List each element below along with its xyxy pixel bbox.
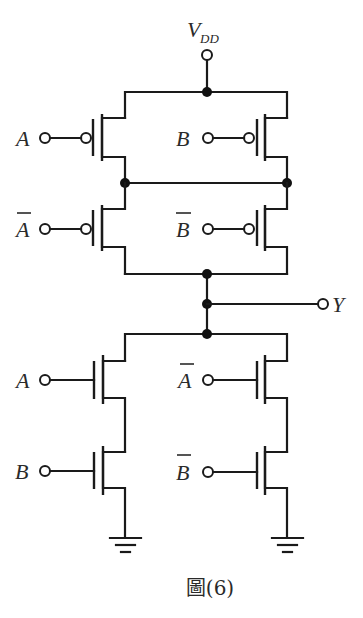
- nmos-b-input-terminal: [40, 466, 50, 476]
- pmos-b-bar-input-terminal: [203, 224, 213, 234]
- nmos-a-bar-input-terminal: [203, 375, 213, 385]
- pmos-b-input-label: B: [176, 126, 189, 151]
- pmos-b-bar-input-label: B: [176, 217, 189, 242]
- pmos-b-gate-bubble: [244, 133, 254, 143]
- ground-icon: [272, 538, 303, 552]
- nmos-b-channel: [103, 452, 125, 538]
- pmos-a-bar-input-terminal: [40, 224, 50, 234]
- nmos-b: B: [15, 446, 125, 538]
- nmos-a-bar-channel: [265, 361, 287, 452]
- vdd-subscript: DD: [199, 31, 219, 46]
- pmos-b-channel: [265, 118, 287, 183]
- nmos-a-input-label: A: [14, 368, 30, 393]
- pmos-a-channel: [102, 118, 125, 183]
- junction-vdd: [202, 87, 212, 97]
- figure-caption: 圖(6): [186, 576, 234, 600]
- nmos-b-bar: B: [176, 446, 287, 538]
- nmos-a-input-terminal: [40, 375, 50, 385]
- junction-pulldown: [202, 329, 212, 339]
- nmos-b-bar-input-terminal: [203, 467, 213, 477]
- circuit-diagram: V DD A B A: [0, 0, 363, 618]
- vdd-supply: V DD: [187, 17, 219, 92]
- nmos-a-bar-input-label: A: [176, 368, 192, 393]
- vdd-terminal: [202, 50, 212, 60]
- pmos-b-bar: B: [176, 183, 287, 274]
- pmos-b-input-terminal: [203, 133, 213, 143]
- nmos-b-bar-channel: [265, 452, 287, 538]
- junction-pullup-out: [202, 269, 212, 279]
- ground-icon: [110, 538, 141, 552]
- pmos-a: A: [14, 114, 125, 183]
- pmos-b-bar-channel: [265, 183, 287, 274]
- nmos-a-bar: A: [176, 355, 287, 452]
- pmos-a-input-terminal: [40, 133, 50, 143]
- output-terminal: [318, 299, 328, 309]
- pmos-b: B: [176, 114, 287, 183]
- pmos-a-bar-input-label: A: [14, 217, 30, 242]
- nmos-a-channel: [103, 361, 125, 452]
- pmos-a-input-label: A: [14, 126, 30, 151]
- nmos-b-input-label: B: [15, 459, 28, 484]
- output-label: Y: [332, 292, 347, 317]
- nmos-b-bar-input-label: B: [176, 460, 189, 485]
- pmos-b-bar-gate-bubble: [244, 224, 254, 234]
- pmos-a-bar-gate-bubble: [81, 224, 91, 234]
- pmos-a-bar: A: [14, 183, 125, 274]
- pmos-a-gate-bubble: [81, 133, 91, 143]
- nmos-a: A: [14, 355, 125, 452]
- pmos-a-bar-channel: [102, 183, 125, 274]
